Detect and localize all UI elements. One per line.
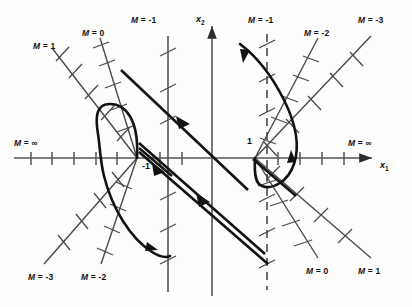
plot-canvas — [0, 0, 412, 307]
locus-left-loop — [97, 104, 170, 257]
m-label-bottom-neg2: M = -2 — [81, 272, 107, 282]
locus-diagonal-4 — [253, 159, 296, 196]
m-label-top-neg3: M = -3 — [358, 15, 384, 25]
m-label-top-1: M = 1 — [33, 41, 56, 51]
m-label-top-neg1-left: M = -1 — [131, 15, 157, 25]
axis-x1 — [14, 152, 372, 165]
m-ray-left-neg3 — [44, 158, 137, 264]
root-locus-figure: x1 x2 -1 1 M = 1 M = 0 M = -1 M = -1 M =… — [0, 0, 412, 307]
m-label-bottom-0: M = 0 — [306, 266, 329, 276]
locus-diagonal-3 — [139, 152, 268, 264]
locus-diagonal-1 — [121, 70, 248, 190]
m-ray-left-1 — [52, 47, 137, 158]
m-label-top-0: M = 0 — [82, 28, 105, 38]
y-axis-label: x2 — [196, 14, 205, 26]
locus-diagonal-2 — [139, 143, 265, 254]
m-label-bottom-1: M = 1 — [358, 266, 381, 276]
m-ray-right-1 — [255, 158, 371, 258]
m-ray-right-0 — [255, 158, 318, 258]
locus-right-loop — [240, 44, 297, 187]
m-label-top-neg1-right: M = -1 — [248, 15, 274, 25]
m-label-right-infinity: M = ∞ — [348, 138, 372, 148]
x-axis-label: x1 — [380, 160, 389, 172]
m-label-left-infinity: M = ∞ — [14, 138, 38, 148]
m-label-bottom-neg3: M = -3 — [28, 272, 54, 282]
point-label-pos1: 1 — [247, 136, 252, 146]
m-label-top-neg2: M = -2 — [304, 28, 330, 38]
point-label-neg1: -1 — [142, 161, 150, 171]
